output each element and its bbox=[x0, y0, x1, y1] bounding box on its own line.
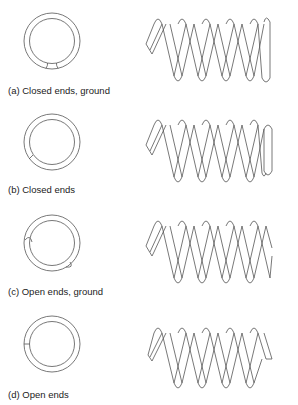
side-view-spring-closed bbox=[140, 107, 280, 187]
end-view-ring-closed-ground bbox=[18, 8, 88, 78]
side-view-spring-open-ground bbox=[140, 208, 280, 288]
panel-closed-ends: (b) Closed ends bbox=[0, 101, 298, 202]
caption-closed-ends-ground: (a) Closed ends, ground bbox=[8, 85, 110, 96]
end-view-ring-open-ground bbox=[18, 210, 88, 280]
end-view-ring-open bbox=[18, 311, 88, 381]
panel-open-ends: (d) Open ends bbox=[0, 303, 298, 404]
side-view-spring-closed-ground bbox=[140, 6, 280, 86]
end-view-ring-closed bbox=[18, 109, 88, 179]
panel-closed-ends-ground: (a) Closed ends, ground bbox=[0, 0, 298, 101]
side-view-spring-open bbox=[140, 309, 280, 389]
caption-open-ends-ground: (c) Open ends, ground bbox=[8, 286, 103, 297]
panel-open-ends-ground: (c) Open ends, ground bbox=[0, 202, 298, 303]
caption-closed-ends: (b) Closed ends bbox=[8, 184, 75, 195]
caption-open-ends: (d) Open ends bbox=[8, 389, 69, 400]
